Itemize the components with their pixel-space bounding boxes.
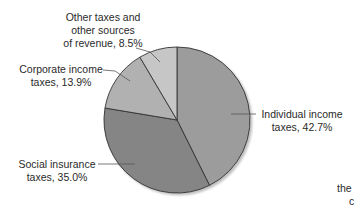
cropped-text: the c xyxy=(337,182,356,208)
pie-slices xyxy=(104,47,250,193)
label-individual-line2: taxes, 42.7% xyxy=(258,121,346,134)
label-other: Other taxes and other sources of revenue… xyxy=(58,11,148,50)
label-corporate-line2: taxes, 13.9% xyxy=(16,76,106,89)
label-corporate-line1: Corporate income xyxy=(16,63,106,76)
label-individual-line1: Individual income xyxy=(258,108,346,121)
label-social-line1: Social insurance xyxy=(14,158,100,171)
label-corporate: Corporate income taxes, 13.9% xyxy=(16,63,106,89)
label-social-line2: taxes, 35.0% xyxy=(14,171,100,184)
label-other-line3: of revenue, 8.5% xyxy=(58,37,148,50)
label-other-line1: Other taxes and xyxy=(58,11,148,24)
label-individual: Individual income taxes, 42.7% xyxy=(258,108,346,134)
cropped-text-line2: c xyxy=(337,195,356,208)
cropped-text-line1: the xyxy=(337,182,356,195)
label-other-line2: other sources xyxy=(58,24,148,37)
label-social: Social insurance taxes, 35.0% xyxy=(14,158,100,184)
